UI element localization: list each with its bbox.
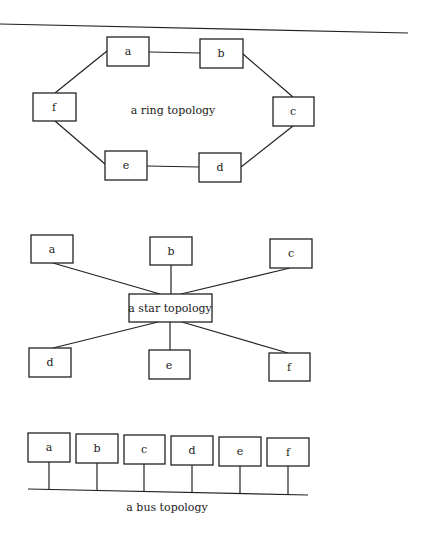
- ring-node-a: a: [107, 37, 149, 66]
- bus-node-d: d: [171, 436, 213, 465]
- bus-backbone: [28, 489, 308, 495]
- star-edge-c: [181, 268, 290, 294]
- star-node-d: d: [29, 348, 71, 377]
- bus-caption: a bus topology: [126, 501, 208, 514]
- ring-edge-b-c: [243, 54, 293, 97]
- bus-node-c-label: c: [141, 443, 147, 456]
- ring-node-a-label: a: [125, 45, 132, 58]
- star-node-c: c: [270, 239, 312, 268]
- top-rule: [0, 24, 408, 33]
- bus-node-e-label: e: [237, 445, 244, 458]
- network-topologies-figure: a b c d e f a ring topology: [0, 0, 423, 538]
- bus-node-e: e: [219, 437, 261, 466]
- bus-node-c: c: [124, 435, 165, 464]
- star-node-b-label: b: [167, 245, 174, 258]
- star-node-e-label: e: [166, 359, 173, 372]
- ring-node-c: c: [273, 97, 314, 126]
- star-hub: a star topology: [128, 294, 212, 322]
- ring-edge-a-b: [149, 52, 200, 53]
- bus-node-d-label: d: [188, 444, 195, 457]
- star-node-c-label: c: [288, 247, 294, 260]
- ring-node-d-label: d: [216, 161, 223, 174]
- ring-edge-c-d: [241, 126, 293, 167]
- ring-node-e: e: [105, 151, 147, 180]
- ring-edge-f-a: [55, 51, 107, 93]
- bus-node-b: b: [76, 434, 118, 463]
- ring-edge-e-f: [55, 121, 105, 164]
- ring-caption: a ring topology: [131, 104, 216, 117]
- star-node-d-label: d: [46, 356, 53, 369]
- star-edge-d: [53, 322, 158, 348]
- ring-edge-d-e: [147, 166, 199, 167]
- ring-node-d: d: [199, 153, 241, 182]
- ring-node-f: f: [33, 93, 76, 121]
- star-hub-label: a star topology: [128, 302, 212, 315]
- star-edge-f: [182, 322, 288, 353]
- ring-node-e-label: e: [123, 159, 130, 172]
- bus-node-f: f: [267, 438, 309, 466]
- bus-topology: a b c d e f a bus topology: [28, 433, 309, 514]
- ring-node-b: b: [200, 39, 243, 68]
- star-node-b: b: [150, 237, 192, 265]
- ring-topology: a b c d e f a ring topology: [33, 37, 314, 182]
- star-edge-a: [53, 263, 160, 294]
- ring-node-b-label: b: [217, 47, 224, 60]
- ring-node-c-label: c: [290, 105, 296, 118]
- star-node-a: a: [31, 235, 73, 263]
- bus-node-b-label: b: [93, 442, 100, 455]
- star-node-a-label: a: [49, 243, 56, 256]
- star-node-f: f: [269, 353, 310, 381]
- bus-node-a: a: [28, 433, 70, 462]
- bus-node-a-label: a: [46, 441, 53, 454]
- star-topology: a b c a star topology d e f: [29, 235, 312, 381]
- star-node-e: e: [149, 350, 190, 379]
